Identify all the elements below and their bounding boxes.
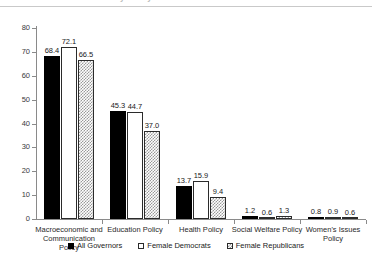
bar — [308, 217, 324, 219]
y-axis-tick — [32, 219, 37, 220]
x-axis-label-line: Education Policy — [98, 225, 172, 234]
bar — [325, 217, 341, 219]
x-axis-category-label: Education Policy — [98, 225, 172, 234]
x-axis-tick — [168, 220, 169, 224]
x-axis-category-label: Social Welfare Policy — [230, 225, 304, 234]
x-axis-tick — [300, 220, 301, 224]
bar-value-label: 37.0 — [140, 122, 164, 130]
x-axis-label-line: Macroeconomic and — [32, 225, 106, 234]
bar-value-label: 66.5 — [74, 51, 98, 59]
bar-value-label: 44.7 — [123, 103, 147, 111]
y-axis-label: 50 — [6, 96, 30, 104]
bar — [210, 197, 226, 219]
x-axis-category-label: Health Policy — [164, 225, 238, 234]
x-axis-label-line: Social Welfare Policy — [230, 225, 304, 234]
legend-label: Female Republicans — [236, 241, 304, 250]
bar — [276, 216, 292, 219]
legend-label: All Governors — [77, 241, 122, 250]
y-axis-label: 30 — [6, 143, 30, 151]
x-axis-tick — [366, 220, 367, 224]
y-axis-label: 80 — [6, 24, 30, 32]
bar — [61, 47, 77, 219]
bar — [259, 217, 275, 219]
x-axis-tick — [234, 220, 235, 224]
legend-swatch-icon — [138, 243, 144, 249]
x-axis-line — [36, 219, 366, 220]
legend-label: Female Democrats — [147, 241, 210, 250]
y-axis-label: 10 — [6, 191, 30, 199]
legend-swatch-icon — [227, 243, 233, 249]
bar — [242, 216, 258, 219]
x-axis-label-line: Health Policy — [164, 225, 238, 234]
chart-title: Issue Attention by Policy Area — [52, 0, 173, 2]
bar — [176, 186, 192, 219]
bar — [144, 131, 160, 219]
y-axis-label: 60 — [6, 72, 30, 80]
legend-item: Female Republicans — [227, 241, 304, 250]
y-axis-label: 0 — [6, 215, 30, 223]
y-axis-label: 70 — [6, 48, 30, 56]
bar-chart: 01020304050607080 68.472.166.5Macroecono… — [0, 7, 372, 261]
x-axis-tick — [102, 220, 103, 224]
legend-swatch-icon — [68, 243, 74, 249]
y-axis-label: 20 — [6, 167, 30, 175]
y-axis-label: 40 — [6, 120, 30, 128]
legend-item: Female Democrats — [138, 241, 210, 250]
bar-value-label: 1.3 — [272, 207, 296, 215]
bar-value-label: 0.6 — [338, 209, 362, 217]
chart-legend: All GovernorsFemale DemocratsFemale Repu… — [0, 241, 372, 250]
bar — [110, 111, 126, 219]
legend-item: All Governors — [68, 241, 122, 250]
bar — [78, 60, 94, 219]
bar — [44, 56, 60, 219]
bar-value-label: 15.9 — [189, 172, 213, 180]
bar-value-label: 9.4 — [206, 188, 230, 196]
bar — [342, 217, 358, 219]
bar-value-label: 68.4 — [40, 47, 64, 55]
bar-value-label: 72.1 — [57, 38, 81, 46]
